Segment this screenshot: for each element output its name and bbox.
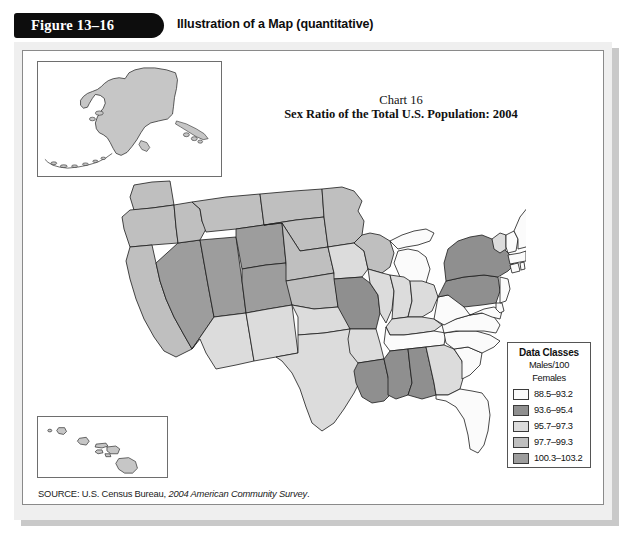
legend-item-label: 93.6–95.4 (534, 405, 573, 415)
legend-swatch (513, 421, 529, 432)
state-co (242, 263, 292, 313)
state-wy (236, 223, 286, 269)
figure-caption: Illustration of a Map (quantitative) (177, 17, 373, 31)
figure-number-pill: Figure 13–16 (14, 13, 164, 38)
state-alaska (81, 68, 178, 155)
figure-number-label: Figure 13–16 (31, 17, 114, 34)
legend-swatch (513, 405, 529, 416)
state-ri (520, 262, 525, 270)
map-legend: Data Classes Males/100 Females 88.5–93.2… (507, 342, 591, 468)
state-in (390, 275, 412, 319)
alaska-southeast-panhandle (175, 121, 208, 143)
legend-title: Data Classes (513, 347, 585, 359)
legend-item: 100.3–103.2 (513, 450, 585, 466)
chart-title: Sex Ratio of the Total U.S. Population: … (231, 107, 571, 122)
state-ct (510, 263, 520, 273)
legend-item-label: 100.3–103.2 (534, 453, 582, 463)
state-fl (436, 389, 490, 453)
legend-subtitle: Males/100 Females (513, 359, 585, 385)
us-choropleth-map (96, 177, 526, 467)
state-nm (246, 305, 298, 361)
island-kauai (57, 428, 67, 435)
legend-swatch (513, 437, 529, 448)
legend-item-label: 95.7–97.3 (534, 421, 573, 431)
legend-swatch (513, 389, 529, 400)
state-or (122, 205, 178, 247)
alaska-kodiak (139, 141, 150, 152)
legend-item: 93.6–95.4 (513, 402, 585, 418)
chart-number: Chart 16 (231, 93, 571, 107)
source-prefix: SOURCE: U.S. Census Bureau, (38, 488, 168, 499)
us-map-svg (96, 177, 526, 467)
legend-item: 88.5–93.2 (513, 386, 585, 402)
source-note: SOURCE: U.S. Census Bureau, 2004 America… (38, 488, 309, 499)
source-suffix: . (307, 488, 309, 499)
legend-item-label: 97.7–99.3 (534, 437, 573, 447)
legend-item: 97.7–99.3 (513, 434, 585, 450)
alaska-aleutian-chain (45, 153, 112, 168)
figure-page-body: Chart 16 Sex Ratio of the Total U.S. Pop… (22, 50, 604, 505)
state-mn (322, 187, 364, 247)
legend-item-label: 88.5–93.2 (534, 389, 573, 399)
island-oahu (77, 437, 89, 445)
chart-title-block: Chart 16 Sex Ratio of the Total U.S. Pop… (231, 93, 571, 122)
state-ms (384, 349, 412, 399)
state-oh (408, 281, 438, 317)
figure-header: Figure 13–16 Illustration of a Map (quan… (0, 13, 637, 39)
state-nj (500, 277, 510, 303)
alaska-aleutian-islands (51, 157, 106, 167)
alaska-inset-svg (38, 62, 221, 176)
alaska-inset-map (37, 61, 222, 177)
legend-swatch (513, 453, 529, 464)
island-niihau (48, 429, 52, 432)
source-publication: 2004 American Community Survey (168, 488, 307, 499)
legend-item: 95.7–97.3 (513, 418, 585, 434)
